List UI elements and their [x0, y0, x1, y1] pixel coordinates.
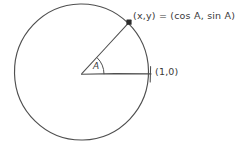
diagram-canvas: (x,y) = (cos A, sin A) (1,0) A — [0, 0, 248, 148]
point-coordinates-label: (x,y) = (cos A, sin A) — [133, 11, 235, 21]
unit-circle-figure — [0, 0, 248, 148]
radius-horizontal-line — [82, 74, 152, 75]
angle-label: A — [93, 62, 99, 71]
axis-point-label: (1,0) — [155, 67, 179, 77]
radius-angled-line — [82, 23, 129, 74]
terminal-point-dot — [126, 20, 131, 25]
